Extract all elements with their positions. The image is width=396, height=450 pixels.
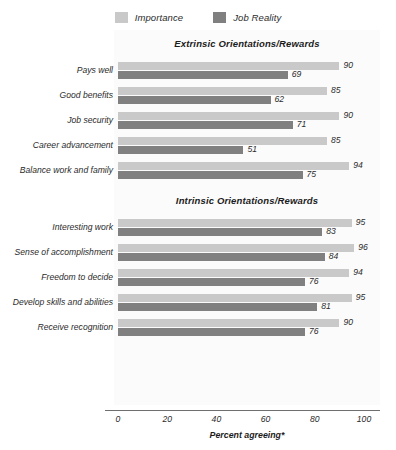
bar-job-reality [118, 228, 322, 236]
bar-importance [118, 137, 327, 145]
bar-value-label: 90 [343, 110, 353, 120]
bar-job-reality [118, 278, 305, 286]
bar-job-reality [118, 253, 325, 261]
x-axis-line [105, 410, 380, 411]
bar-job-reality [118, 328, 305, 336]
bar-value-label: 96 [358, 242, 368, 252]
bar-value-label: 90 [343, 317, 353, 327]
bar-value-label: 85 [331, 135, 341, 145]
category-label: Job security [0, 115, 113, 125]
x-axis-tick-20: 20 [147, 414, 187, 424]
legend-item-job-reality: Job Reality [213, 12, 281, 23]
category-label: Receive recognition [0, 322, 113, 332]
bar-value-label: 51 [247, 144, 257, 154]
bar-value-label: 94 [353, 160, 363, 170]
section-header-0: Extrinsic Orientations/Rewards [114, 38, 380, 49]
bar-importance [118, 294, 352, 302]
category-label: Pays well [0, 65, 113, 75]
bar-value-label: 83 [326, 226, 336, 236]
bar-value-label: 76 [309, 326, 319, 336]
x-axis-tick-60: 60 [246, 414, 286, 424]
x-axis-tick-100: 100 [344, 414, 384, 424]
legend-swatch-job-reality [213, 12, 226, 23]
x-axis-tick-80: 80 [295, 414, 335, 424]
bar-chart: Importance Job Reality Extrinsic Orienta… [0, 0, 396, 450]
category-label: Develop skills and abilities [0, 297, 113, 307]
bar-value-label: 69 [292, 69, 302, 79]
x-axis-tick-40: 40 [196, 414, 236, 424]
bar-value-label: 71 [297, 119, 307, 129]
x-axis-tick-0: 0 [98, 414, 138, 424]
legend-label-importance: Importance [135, 12, 184, 23]
bar-job-reality [118, 146, 243, 154]
bar-value-label: 62 [275, 94, 285, 104]
category-label: Freedom to decide [0, 272, 113, 282]
category-label: Career advancement [0, 140, 113, 150]
legend-label-job-reality: Job Reality [233, 12, 281, 23]
section-header-1: Intrinsic Orientations/Rewards [114, 195, 380, 206]
bar-importance [118, 219, 352, 227]
x-axis-title: Percent agreeing* [114, 430, 380, 440]
category-label: Balance work and family [0, 165, 113, 175]
bar-value-label: 81 [321, 301, 331, 311]
legend-item-importance: Importance [115, 12, 184, 23]
bar-importance [118, 87, 327, 95]
bar-value-label: 84 [329, 251, 339, 261]
bar-job-reality [118, 96, 271, 104]
bar-job-reality [118, 303, 317, 311]
category-label: Interesting work [0, 222, 113, 232]
bar-importance [118, 244, 354, 252]
bar-value-label: 90 [343, 60, 353, 70]
bar-importance [118, 319, 339, 327]
bar-value-label: 94 [353, 267, 363, 277]
legend-swatch-importance [115, 12, 128, 23]
chart-legend: Importance Job Reality [0, 12, 396, 23]
bar-job-reality [118, 71, 288, 79]
category-label: Good benefits [0, 90, 113, 100]
bar-job-reality [118, 171, 303, 179]
bar-value-label: 76 [309, 276, 319, 286]
bar-value-label: 75 [307, 169, 317, 179]
bar-value-label: 95 [356, 217, 366, 227]
bar-value-label: 95 [356, 292, 366, 302]
bar-importance [118, 62, 339, 70]
bar-value-label: 85 [331, 85, 341, 95]
bar-job-reality [118, 121, 293, 129]
category-label: Sense of accomplishment [0, 247, 113, 257]
